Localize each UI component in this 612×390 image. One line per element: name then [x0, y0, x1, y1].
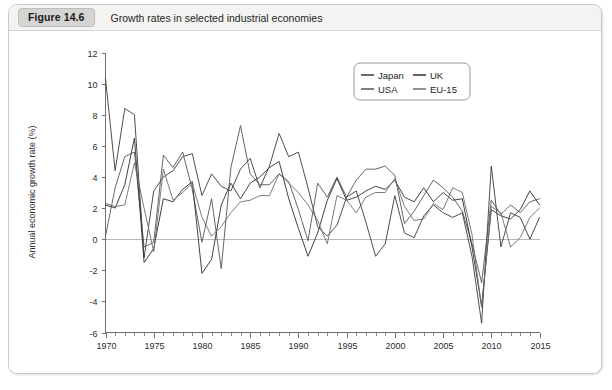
y-tick-label: 4: [92, 173, 97, 183]
legend-label-usa: USA: [378, 84, 398, 95]
y-tick-label: 10: [87, 80, 97, 90]
x-tick-label: 2015: [530, 341, 550, 351]
growth-rate-line-chart: 121086420-2-4-6 197019751980198519901995…: [9, 31, 602, 374]
figure-body: 121086420-2-4-6 197019751980198519901995…: [9, 31, 601, 374]
y-tick-label: 6: [92, 142, 97, 152]
x-tick-label: 1985: [240, 341, 260, 351]
figure-container: Figure 14.6 Growth rates in selected ind…: [8, 4, 602, 374]
legend-label-japan: Japan: [378, 70, 404, 81]
figure-number-badge: Figure 14.6: [18, 8, 95, 27]
series-line-eu-15: [106, 163, 540, 308]
x-tick-label: 1990: [288, 341, 308, 351]
y-axis-tick-labels: 121086420-2-4-6: [87, 49, 97, 339]
x-tick-label: 2000: [385, 341, 405, 351]
x-axis-ticks: [107, 333, 541, 338]
series-line-uk: [106, 138, 540, 306]
x-tick-label: 1980: [192, 341, 212, 351]
y-tick-label: -6: [89, 329, 97, 339]
y-axis-ticks: [102, 54, 106, 334]
figure-title: Growth rates in selected industrial econ…: [111, 12, 323, 24]
y-tick-label: 2: [92, 204, 97, 214]
x-tick-label: 2005: [433, 341, 453, 351]
figure-header: Figure 14.6 Growth rates in selected ind…: [9, 5, 601, 31]
x-tick-label: 1975: [144, 341, 164, 351]
y-tick-label: 12: [87, 49, 97, 59]
y-tick-label: -4: [89, 297, 97, 307]
y-tick-label: -2: [89, 266, 97, 276]
chart-series-group: [106, 79, 540, 323]
legend-label-eu15: EU-15: [430, 84, 457, 95]
x-tick-label: 1995: [337, 341, 357, 351]
x-tick-label: 2010: [481, 341, 501, 351]
y-axis-title: Annual economic growth rate (%): [27, 125, 37, 258]
chart-legend[interactable]: Japan UK USA EU-15: [354, 63, 470, 100]
legend-label-uk: UK: [430, 70, 444, 81]
y-tick-label: 8: [92, 111, 97, 121]
x-axis-tick-labels: 1970197519801985199019952000200520102015: [96, 341, 550, 351]
x-tick-label: 1970: [96, 341, 116, 351]
y-tick-label: 0: [92, 235, 97, 245]
